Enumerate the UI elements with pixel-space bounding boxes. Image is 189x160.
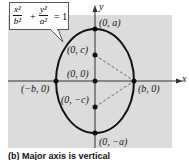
fraction-y-numerator: y² (39, 5, 48, 16)
equation-callout: x² b² + y² a² = 1 (9, 2, 69, 30)
callout-joint (51, 28, 57, 30)
fraction-x: x² b² (13, 5, 22, 26)
fraction-x-numerator: x² (13, 5, 22, 16)
point-right (132, 79, 137, 84)
fraction-y: y² a² (39, 5, 48, 26)
callout-pointer (50, 29, 63, 42)
point-focus-top (93, 53, 98, 58)
y-axis-arrow-icon (93, 5, 98, 12)
label-top: (0, a) (99, 18, 121, 28)
x-axis-label: x (182, 74, 186, 84)
figure-caption: (b) Major axis is vertical (8, 151, 110, 160)
label-center: (0, 0) (67, 69, 89, 79)
label-focus-bottom: (0, −c) (61, 95, 89, 105)
equation-equals: = 1 (54, 12, 67, 22)
label-focus-top: (0, c) (67, 45, 88, 55)
dashed-line-top (95, 55, 134, 81)
dashed-line-bottom (95, 81, 134, 107)
label-bottom: (0, −a) (99, 137, 127, 147)
fraction-x-denominator: b² (13, 16, 22, 26)
equation-plus: + (30, 12, 36, 22)
point-bottom (93, 131, 98, 136)
point-center (93, 79, 98, 84)
fraction-y-denominator: a² (39, 16, 48, 26)
y-axis-label: y (99, 2, 103, 12)
point-focus-bottom (93, 105, 98, 110)
label-right: (b, 0) (138, 84, 160, 94)
label-left: (−b, 0) (21, 84, 49, 94)
point-left (54, 79, 59, 84)
point-top (93, 27, 98, 32)
